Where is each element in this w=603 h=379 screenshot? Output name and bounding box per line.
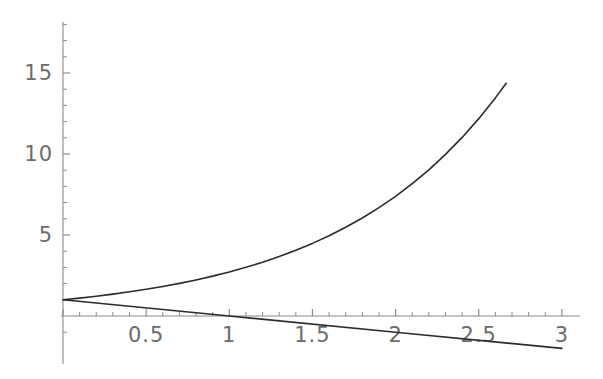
plot-figure: 0.511.522.5351015 xyxy=(0,0,603,379)
x-axis-tick-label: 2 xyxy=(388,323,402,347)
y-axis-tick-label: 5 xyxy=(39,223,53,247)
y-axis-tick-label: 10 xyxy=(24,142,53,166)
x-axis-tick-label: 3 xyxy=(555,323,569,347)
y-axis-tick-label: 15 xyxy=(24,61,53,85)
plot-canvas: 0.511.522.5351015 xyxy=(0,0,603,379)
series-curve-exponential xyxy=(63,83,506,300)
x-axis-tick-label: 0.5 xyxy=(128,323,164,347)
x-axis-tick-label: 2.5 xyxy=(461,323,497,347)
x-axis-tick-label: 1 xyxy=(222,323,236,347)
x-axis-tick-label: 1.5 xyxy=(294,323,330,347)
